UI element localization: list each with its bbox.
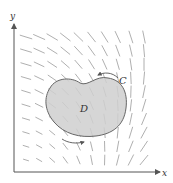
field-vector <box>116 155 119 166</box>
field-vector <box>130 113 133 125</box>
field-vector <box>36 158 42 161</box>
field-vector <box>36 131 43 135</box>
field-vector <box>89 60 95 70</box>
field-vector <box>21 90 30 93</box>
field-vector <box>74 33 83 42</box>
curve-orientation-arrow-top <box>98 73 118 78</box>
field-vector <box>23 159 29 161</box>
field-vector <box>61 61 70 69</box>
field-vector <box>142 99 146 112</box>
field-vector <box>20 35 32 39</box>
field-vector <box>91 155 93 165</box>
curve-label: C <box>119 75 127 86</box>
field-vector <box>22 118 30 120</box>
field-vector <box>34 62 44 67</box>
region-label: D <box>79 103 88 114</box>
field-vector <box>60 33 70 41</box>
field-vector <box>36 145 42 148</box>
field-vector <box>49 158 55 163</box>
field-vector <box>116 59 119 70</box>
field-vector <box>117 141 119 152</box>
field-vector <box>140 141 147 152</box>
field-vector <box>47 47 57 54</box>
field-vector <box>20 49 32 53</box>
field-vector <box>129 127 133 139</box>
field-vector <box>140 155 148 165</box>
field-vector <box>63 143 68 150</box>
field-vector <box>22 132 29 134</box>
field-vector <box>130 99 131 111</box>
field-vector <box>143 85 146 98</box>
field-vector <box>77 156 81 164</box>
x-axis-label: x <box>162 168 167 178</box>
field-vector <box>35 90 44 94</box>
field-vector <box>34 48 45 53</box>
field-vector <box>22 104 31 107</box>
diagram-canvas: y x D C <box>0 0 173 183</box>
field-vector <box>49 130 55 135</box>
field-vector <box>143 31 146 44</box>
field-vector <box>129 141 134 152</box>
field-vector <box>35 103 43 107</box>
field-vector <box>33 34 45 39</box>
field-vector <box>75 60 83 69</box>
field-vector <box>129 31 133 43</box>
field-vector <box>88 46 95 56</box>
field-vector <box>21 63 32 66</box>
field-vector <box>21 77 31 80</box>
curve-orientation-arrow-bottom <box>62 139 84 143</box>
field-vector <box>131 72 132 84</box>
field-vector <box>142 113 147 125</box>
field-vector <box>116 45 120 57</box>
field-vector <box>90 142 92 152</box>
field-vector <box>49 144 55 149</box>
field-vector <box>102 59 107 69</box>
field-vector <box>143 72 144 85</box>
field-vector <box>115 31 121 43</box>
field-vector <box>141 127 147 138</box>
field-vector <box>47 61 57 67</box>
field-vector <box>34 76 44 81</box>
field-vector <box>128 155 134 166</box>
field-vector <box>101 32 108 43</box>
field-vector <box>47 34 58 41</box>
field-vector <box>143 44 144 57</box>
field-vector <box>74 46 82 55</box>
y-axis-label: y <box>9 11 16 21</box>
field-vector <box>88 32 96 42</box>
field-vector <box>48 75 57 81</box>
field-vector <box>102 45 108 56</box>
field-vector <box>117 127 118 138</box>
field-vector <box>130 45 133 57</box>
field-vector <box>23 145 29 147</box>
field-vector <box>130 58 132 70</box>
field-vector <box>35 117 42 121</box>
field-vector <box>61 47 71 55</box>
field-vector <box>63 157 68 164</box>
